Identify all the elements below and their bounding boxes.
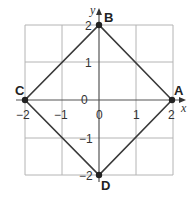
label-d: D: [101, 178, 110, 193]
point-b: [96, 22, 102, 28]
x-tick: 0: [96, 108, 103, 122]
coordinate-diagram: A B C D y x −2 −1 0 1 2 2 1 0 −1 −2: [0, 0, 195, 199]
y-axis-arrow-icon: [96, 8, 102, 15]
y-tick: −1: [79, 132, 93, 146]
x-tick: 1: [133, 108, 140, 122]
y-tick: 0: [81, 93, 88, 107]
label-b: B: [104, 10, 113, 25]
y-tick: 1: [85, 56, 92, 70]
x-tick: 2: [168, 108, 175, 122]
x-tick: −1: [54, 108, 68, 122]
y-axis-label: y: [89, 3, 96, 17]
y-tick: 2: [85, 19, 92, 33]
axes: [16, 8, 186, 182]
label-c: C: [15, 83, 25, 98]
label-a: A: [174, 83, 184, 98]
y-tick: −2: [79, 169, 93, 183]
x-axis-label: x: [180, 101, 187, 115]
x-tick: −2: [16, 108, 30, 122]
